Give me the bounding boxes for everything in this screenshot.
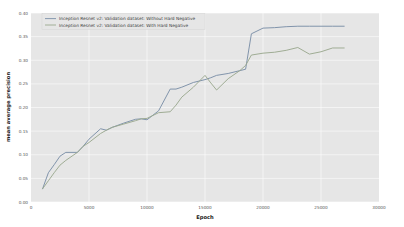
x-tick-label: 15000: [198, 205, 212, 210]
x-tick-label: 0: [30, 205, 33, 210]
x-tick-label: 20000: [256, 205, 270, 210]
line-chart: 0.000.050.100.150.200.250.300.350.40 050…: [0, 0, 404, 227]
x-tick-label: 5000: [84, 205, 95, 210]
y-tick-label: 0.10: [19, 152, 29, 157]
x-tick-label: 10000: [140, 205, 154, 210]
y-tick-label: 0.20: [19, 105, 29, 110]
y-tick-label: 0.00: [19, 200, 29, 205]
y-tick-label: 0.40: [19, 11, 29, 16]
y-tick-label: 0.05: [19, 176, 29, 181]
legend-label-without-hard-negative: Inception Resnet v2: Validation dataset:…: [59, 16, 196, 21]
x-tick-label: 25000: [314, 205, 328, 210]
y-tick-label: 0.30: [19, 58, 29, 63]
legend-label-with-hard-negative: Inception Resnet v2: Validation dataset:…: [59, 23, 189, 28]
y-tick-label: 0.15: [19, 129, 29, 134]
x-axis-title: Epoch: [196, 214, 214, 221]
chart-figure: 0.000.050.100.150.200.250.300.350.40 050…: [0, 0, 404, 227]
y-tick-label: 0.25: [19, 81, 29, 86]
x-tick-label: 30000: [372, 205, 386, 210]
y-axis-title: mean average precision: [5, 72, 12, 142]
y-tick-label: 0.35: [19, 34, 29, 39]
chart-legend: Inception Resnet v2: Validation dataset:…: [42, 14, 205, 30]
